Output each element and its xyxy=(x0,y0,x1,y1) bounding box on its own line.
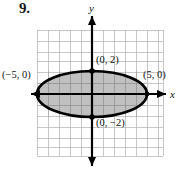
point-label-top: (0, 2) xyxy=(96,55,119,66)
point-label-left: (−5, 0) xyxy=(2,70,31,81)
x-axis-label: x xyxy=(170,89,175,100)
point-neg5-0 xyxy=(35,92,40,97)
point-label-right: (5, 0) xyxy=(143,70,166,81)
y-axis-label: y xyxy=(89,3,94,14)
point-0-2 xyxy=(89,68,95,74)
point-0-neg2 xyxy=(89,114,95,120)
problem-number: 9. xyxy=(19,1,30,16)
coordinate-plane-svg xyxy=(0,0,186,172)
point-5-0 xyxy=(145,92,150,97)
ellipse-figure: 9. xyxy=(0,0,186,172)
point-label-bottom: (0, −2) xyxy=(96,118,125,129)
